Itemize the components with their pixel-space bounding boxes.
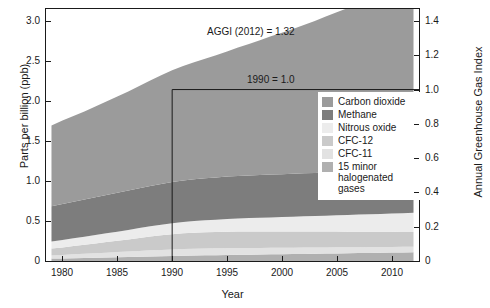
legend-swatch [322, 110, 333, 120]
y-axis-left-tick [46, 141, 51, 142]
legend-item[interactable]: Methane [322, 109, 417, 120]
reference-year-annotation: 1990 = 1.0 [247, 74, 295, 85]
y-axis-left-tick-label: 3.0 [8, 16, 40, 26]
legend-item-label: Carbon dioxide [338, 96, 405, 107]
y-axis-right-tick [414, 227, 419, 228]
x-axis-tick [172, 256, 173, 261]
y-axis-right-tick-label: 1.0 [425, 85, 457, 95]
y-axis-right-tick [414, 55, 419, 56]
y-axis-right-tick-label: 0.6 [425, 153, 457, 163]
ghg-index-chart: Parts per billion (ppb) Annual Greenhous… [0, 0, 490, 308]
legend: Carbon dioxideMethaneNitrous oxideCFC-12… [318, 92, 420, 200]
x-axis-tick [117, 256, 118, 261]
y-axis-left-tick-label: 2.5 [8, 56, 40, 66]
y-axis-right-tick [414, 21, 419, 22]
x-axis-tick [227, 256, 228, 261]
x-axis-tick [392, 256, 393, 261]
y-axis-left-tick-label: 0 [8, 256, 40, 266]
x-axis-tick-label: 1980 [40, 268, 84, 278]
y-axis-right-tick-label: 0.2 [425, 222, 457, 232]
legend-swatch [322, 97, 333, 107]
x-axis-tick [282, 256, 283, 261]
y-axis-right-tick [414, 158, 419, 159]
x-axis-title: Year [45, 288, 420, 300]
y-axis-right-tick [414, 261, 419, 262]
legend-item[interactable]: Carbon dioxide [322, 96, 417, 107]
y-axis-left-tick [46, 261, 51, 262]
legend-swatch [322, 149, 333, 159]
x-axis-tick-label: 2005 [315, 268, 359, 278]
legend-item[interactable]: CFC-11 [322, 148, 417, 159]
legend-item-label: CFC-11 [338, 148, 372, 159]
y-axis-right-tick-label: 0 [425, 256, 457, 266]
legend-item[interactable]: 15 minor halogenated gases [322, 161, 417, 194]
y-axis-left-tick [46, 61, 51, 62]
legend-item-label: 15 minor halogenated gases [338, 161, 417, 194]
y-axis-right-tick-label: 1.4 [425, 16, 457, 26]
y-axis-right-tick-label: 0.8 [425, 119, 457, 129]
legend-swatch [322, 162, 333, 172]
x-axis-tick [62, 256, 63, 261]
legend-swatch [322, 123, 333, 133]
y-axis-right-tick-label: 1.2 [425, 50, 457, 60]
aggi-value-annotation: AGGI (2012) = 1.32 [207, 26, 295, 37]
x-axis-tick-label: 1990 [150, 268, 194, 278]
x-axis-tick-label: 1995 [205, 268, 249, 278]
y-axis-left-tick [46, 101, 51, 102]
legend-item-label: Methane [338, 109, 377, 120]
y-axis-left-tick [46, 21, 51, 22]
x-axis-tick-label: 2010 [370, 268, 414, 278]
x-axis-tick [337, 256, 338, 261]
y-axis-left-tick [46, 221, 51, 222]
legend-item[interactable]: Nitrous oxide [322, 122, 417, 133]
y-axis-left-tick-label: 1.5 [8, 136, 40, 146]
y-axis-right-tick [414, 90, 419, 91]
y-axis-left-tick-label: 2.0 [8, 96, 40, 106]
x-axis-tick-label: 2000 [260, 268, 304, 278]
y-axis-right-tick-label: 0.4 [425, 187, 457, 197]
y-axis-left-tick-label: 0.5 [8, 216, 40, 226]
legend-swatch [322, 136, 333, 146]
y-axis-left-tick [46, 181, 51, 182]
legend-item[interactable]: CFC-12 [322, 135, 417, 146]
y-axis-right-tick [414, 192, 419, 193]
y-axis-right-tick [414, 124, 419, 125]
y-axis-left-tick-label: 1.0 [8, 176, 40, 186]
legend-item-label: Nitrous oxide [338, 122, 396, 133]
legend-item-label: CFC-12 [338, 135, 373, 146]
y-axis-right-title: Annual Greenhouse Gas Index [472, 22, 484, 222]
x-axis-tick-label: 1985 [95, 268, 139, 278]
